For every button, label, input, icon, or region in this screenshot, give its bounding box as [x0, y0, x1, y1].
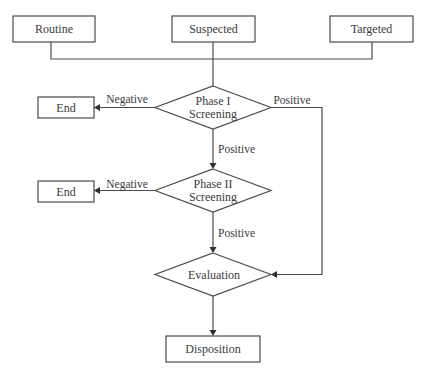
- phase2-negative-label: Negative: [106, 178, 148, 191]
- targeted-label: Targeted: [351, 22, 393, 36]
- node-phase2-screening: Phase II Screening: [155, 169, 271, 212]
- edge-phase2-negative: Negative: [94, 178, 155, 194]
- phase1-label-line2: Screening: [189, 107, 237, 121]
- edge-phase1-negative: Negative: [94, 93, 155, 111]
- arrow-down-icon: [210, 247, 217, 253]
- arrow-down-icon: [210, 330, 217, 336]
- node-evaluation: Evaluation: [155, 253, 271, 296]
- disposition-label: Disposition: [185, 342, 240, 356]
- arrow-down-icon: [210, 163, 217, 169]
- end1-label: End: [56, 101, 75, 115]
- merge-connector: [51, 42, 372, 86]
- arrow-left-icon: [94, 104, 100, 111]
- phase1-positive-right-label: Positive: [273, 94, 310, 106]
- edge-phase1-positive-right: Positive: [271, 94, 322, 278]
- node-routine: Routine: [13, 16, 95, 42]
- arrow-left-icon: [94, 187, 100, 194]
- suspected-label: Suspected: [189, 22, 238, 36]
- phase1-positive-right-line: [271, 108, 322, 275]
- node-phase1-screening: Phase I Screening: [155, 86, 271, 129]
- routine-label: Routine: [35, 22, 73, 36]
- end2-label: End: [56, 185, 75, 199]
- phase2-positive-label: Positive: [218, 227, 255, 239]
- merge-bar-line: [51, 42, 372, 59]
- evaluation-label: Evaluation: [188, 268, 240, 282]
- node-targeted: Targeted: [330, 16, 413, 42]
- node-disposition: Disposition: [166, 336, 260, 362]
- node-end-1: End: [38, 97, 94, 118]
- phase1-label-line1: Phase I: [196, 94, 231, 108]
- edge-phase2-positive: Positive: [210, 212, 256, 253]
- edge-phase1-positive-down: Positive: [210, 129, 256, 169]
- phase1-negative-label: Negative: [106, 93, 148, 106]
- phase1-positive-down-label: Positive: [218, 143, 255, 155]
- edge-evaluation-to-disposition: [210, 296, 217, 336]
- phase2-label-line2: Screening: [189, 190, 237, 204]
- phase2-label-line1: Phase II: [194, 177, 233, 191]
- flowchart-canvas: Routine Suspected Targeted Phase I Scree…: [0, 0, 427, 376]
- node-suspected: Suspected: [172, 16, 255, 42]
- node-end-2: End: [38, 181, 94, 202]
